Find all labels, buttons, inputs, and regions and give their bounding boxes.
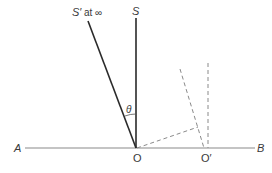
label-s: S [132, 5, 140, 17]
label-b: B [257, 142, 264, 154]
label-o-prime: O′ [201, 152, 212, 164]
label-s-prime: S′ [72, 6, 82, 18]
dashed-slanted-to-o-prime [180, 69, 204, 148]
label-a: A [13, 142, 21, 154]
label-at-infinity: at ∞ [84, 7, 102, 18]
geometry-figure: S′ at ∞ S θ A B O O′ [0, 0, 272, 173]
dashed-perpendicular-from-o [137, 127, 198, 148]
diagram-canvas: S′ at ∞ S θ A B O O′ [0, 0, 272, 173]
line-os-prime [88, 21, 136, 148]
label-theta: θ [126, 104, 132, 115]
label-o: O [133, 152, 142, 164]
